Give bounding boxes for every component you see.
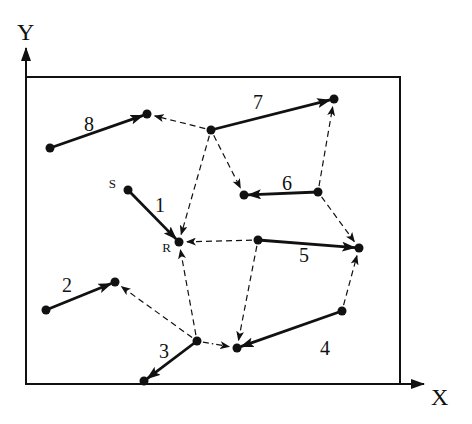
dashed-link-p5s-to-p4e bbox=[239, 246, 257, 340]
node-p6s bbox=[314, 188, 323, 197]
segment-label-6: 6 bbox=[282, 172, 292, 194]
node-p3s bbox=[193, 337, 202, 346]
labels: 12345678SR bbox=[62, 91, 330, 362]
node-p2e bbox=[111, 278, 120, 287]
x-axis-label: X bbox=[431, 384, 448, 410]
nodes bbox=[42, 95, 364, 386]
y-axis-label: Y bbox=[17, 19, 34, 45]
segment-label-1: 1 bbox=[155, 194, 165, 216]
segment-2-arrow bbox=[46, 284, 111, 310]
segment-label-3: 3 bbox=[159, 340, 169, 362]
node-S bbox=[124, 186, 133, 195]
segment-1-arrow bbox=[128, 190, 176, 239]
node-R bbox=[175, 238, 184, 247]
dashed-link-p3s-to-p2e bbox=[121, 287, 192, 338]
dashed-link-p3s-to-R bbox=[180, 250, 195, 335]
dashed-links bbox=[121, 107, 356, 347]
node-p7s bbox=[207, 126, 216, 135]
dashed-link-p7s-to-R bbox=[181, 136, 209, 235]
receiver-label: R bbox=[162, 240, 171, 255]
node-p3e bbox=[140, 377, 149, 386]
node-p8s bbox=[46, 144, 55, 153]
dashed-link-p4s-to-p5e bbox=[344, 256, 357, 305]
segment-3-arrow bbox=[147, 341, 197, 379]
node-p2s bbox=[42, 306, 51, 315]
segment-label-2: 2 bbox=[62, 274, 72, 296]
node-p4e bbox=[233, 344, 242, 353]
node-p8e bbox=[143, 110, 152, 119]
dashed-link-p3s-to-p4e bbox=[203, 342, 229, 347]
diagram-canvas: Y X 12345678SR bbox=[0, 0, 472, 424]
solid-segments bbox=[46, 100, 355, 379]
dashed-link-p7s-to-p6e bbox=[214, 135, 241, 188]
segment-label-5: 5 bbox=[299, 244, 309, 266]
node-p6e bbox=[240, 191, 249, 200]
dashed-link-p7s-to-p8e bbox=[155, 116, 205, 129]
region-box bbox=[26, 77, 400, 384]
segment-7-arrow bbox=[211, 100, 330, 130]
segment-label-7: 7 bbox=[253, 91, 263, 113]
segment-8-arrow bbox=[50, 115, 143, 148]
segment-label-4: 4 bbox=[320, 337, 330, 359]
dashed-link-p6s-to-p7e bbox=[319, 107, 333, 186]
node-p5s bbox=[254, 236, 263, 245]
node-p7e bbox=[330, 95, 339, 104]
dashed-link-p6s-to-p5e bbox=[322, 197, 355, 242]
dashed-link-p5s-to-R bbox=[187, 240, 252, 242]
source-label: S bbox=[109, 176, 116, 191]
node-p5e bbox=[355, 244, 364, 253]
segment-label-8: 8 bbox=[84, 113, 94, 135]
node-p4s bbox=[338, 307, 347, 316]
